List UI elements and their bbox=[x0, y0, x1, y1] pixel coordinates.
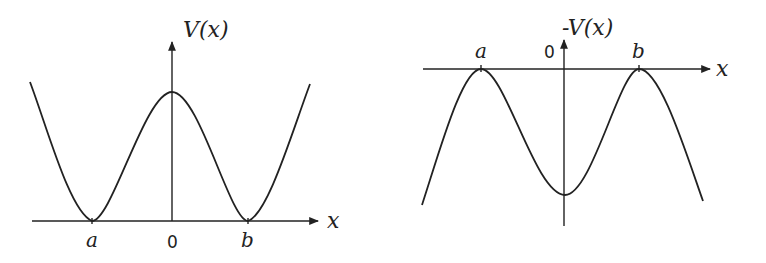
left-plot: V(x) x a 0 b bbox=[30, 17, 340, 252]
right-y-label: -V(x) bbox=[562, 15, 613, 40]
left-tick-label-a: a bbox=[86, 228, 98, 252]
right-tick-label-a: a bbox=[475, 39, 487, 63]
right-x-label: x bbox=[716, 56, 729, 81]
right-tick-label-origin: 0 bbox=[544, 42, 555, 62]
right-inverted-potential-curve bbox=[422, 69, 703, 205]
left-tick-label-origin: 0 bbox=[167, 232, 178, 252]
left-tick-label-b: b bbox=[241, 228, 254, 252]
left-x-label: x bbox=[327, 208, 340, 233]
left-potential-curve bbox=[30, 82, 310, 221]
left-y-label: V(x) bbox=[183, 17, 228, 42]
right-plot: -V(x) x a 0 b bbox=[422, 15, 729, 226]
right-tick-label-b: b bbox=[632, 39, 645, 63]
diagram-canvas: V(x) x a 0 b -V(x) x a 0 b bbox=[0, 0, 766, 263]
